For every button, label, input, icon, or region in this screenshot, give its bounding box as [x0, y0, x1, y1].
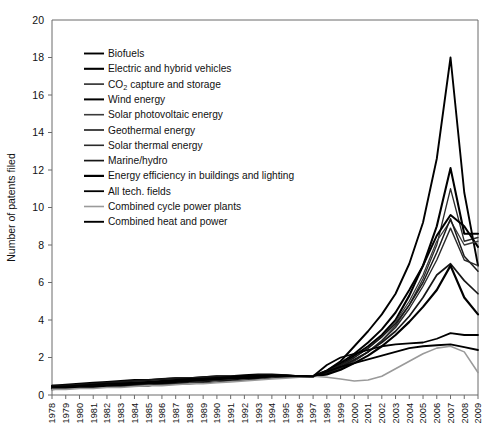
x-tick-label: 1998: [322, 403, 332, 423]
x-tick-label: 1978: [47, 403, 57, 423]
y-tick-label: 6: [38, 276, 44, 288]
x-tick-label: 1984: [130, 403, 140, 423]
x-axis: 1978197919801981198219831984198519861987…: [47, 395, 483, 423]
x-tick-label: 1997: [308, 403, 318, 423]
legend-label-8: Energy efficiency in buildings and light…: [108, 170, 294, 181]
x-tick-label: 2002: [377, 403, 387, 423]
y-tick-label: 4: [38, 314, 44, 326]
x-tick-label: 1989: [199, 403, 209, 423]
legend-label-0: Biofuels: [108, 48, 144, 59]
y-tick-label: 18: [32, 51, 44, 63]
x-tick-label: 1990: [212, 403, 222, 423]
x-tick-label: 1988: [185, 403, 195, 423]
x-tick-label: 1979: [61, 403, 71, 423]
x-tick-label: 2008: [460, 403, 470, 423]
x-tick-label: 1992: [240, 403, 250, 423]
y-axis: 02468101214161820: [32, 14, 52, 401]
legend-label-7: Marine/hydro: [108, 155, 168, 166]
y-tick-label: 0: [38, 389, 44, 401]
x-tick-label: 1983: [116, 403, 126, 423]
x-tick-label: 1994: [267, 403, 277, 423]
legend-label-1: Electric and hybrid vehicles: [108, 63, 231, 74]
x-tick-label: 1996: [295, 403, 305, 423]
y-tick-label: 20: [32, 14, 44, 26]
x-tick-label: 2007: [446, 403, 456, 423]
legend-label-3: Wind energy: [108, 94, 166, 105]
x-tick-label: 2009: [473, 403, 483, 423]
legend-label-11: Combined heat and power: [108, 216, 228, 227]
y-tick-label: 8: [38, 239, 44, 251]
legend-label-10: Combined cycle power plants: [108, 201, 241, 212]
x-tick-label: 2001: [363, 403, 373, 423]
y-tick-label: 14: [32, 126, 44, 138]
x-tick-label: 2003: [391, 403, 401, 423]
x-tick-label: 1986: [157, 403, 167, 423]
legend-label-4: Solar photovoltaic energy: [108, 109, 224, 120]
series-line-4: [52, 221, 478, 388]
y-axis-title: Number of patents filed: [5, 153, 17, 262]
x-tick-label: 1982: [102, 403, 112, 423]
y-tick-label: 10: [32, 201, 44, 213]
x-tick-label: 1991: [226, 403, 236, 423]
x-tick-label: 1981: [89, 403, 99, 423]
x-tick-label: 2004: [405, 403, 415, 423]
legend-label-6: Solar thermal energy: [108, 140, 203, 151]
x-tick-label: 2005: [418, 403, 428, 423]
legend-label-5: Geothermal energy: [108, 125, 196, 136]
chart-canvas: 02468101214161820Number of patents filed…: [0, 0, 493, 442]
y-tick-label: 16: [32, 89, 44, 101]
x-tick-label: 1987: [171, 403, 181, 423]
x-tick-label: 1985: [144, 403, 154, 423]
y-tick-label: 12: [32, 164, 44, 176]
x-tick-label: 2006: [432, 403, 442, 423]
y-tick-label: 2: [38, 351, 44, 363]
legend-label-9: All tech. fields: [108, 186, 171, 197]
legend: BiofuelsElectric and hybrid vehiclesCO2 …: [84, 48, 294, 227]
x-tick-label: 1995: [281, 403, 291, 423]
legend-label-2: CO2 capture and storage: [108, 79, 221, 93]
x-tick-label: 1999: [336, 403, 346, 423]
x-tick-label: 1993: [254, 403, 264, 423]
patents-line-chart-figure: 02468101214161820Number of patents filed…: [0, 0, 493, 442]
series-line-5: [52, 219, 478, 387]
x-tick-label: 2000: [350, 403, 360, 423]
x-tick-label: 1980: [75, 403, 85, 423]
